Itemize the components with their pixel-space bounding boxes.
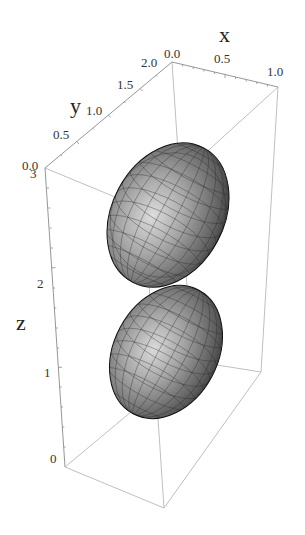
x-axis-label: x: [219, 22, 230, 47]
z-tick-2: 2: [37, 276, 44, 291]
lower-ellipsoid: [87, 266, 245, 438]
x-tick-0: 0.0: [164, 46, 180, 61]
z-tick-3: 3: [30, 166, 37, 181]
upper-ellipsoid: [81, 122, 253, 311]
y-tick-3: 1.5: [117, 77, 133, 92]
y-tick-4: 2.0: [141, 55, 157, 70]
z-tick-labels: 3 2 1 0: [30, 166, 57, 466]
y-tick-labels: 0.0 0.5 1.0 1.5 2.0: [22, 55, 157, 173]
z-axis-label: z: [16, 310, 26, 335]
z-tick-0: 0: [50, 451, 57, 466]
y-tick-2: 1.0: [86, 103, 102, 118]
z-tick-1: 1: [44, 365, 51, 380]
x-tick-1: 0.5: [214, 51, 230, 66]
x-tick-2: 1.0: [267, 64, 283, 79]
3d-plot: 0.0 0.5 1.0 0.0 0.5 1.0 1.5 2.0 3 2 1 0 …: [0, 0, 305, 535]
y-axis-label: y: [70, 93, 81, 118]
z-axis: [45, 168, 66, 467]
y-tick-1: 0.5: [53, 127, 69, 142]
